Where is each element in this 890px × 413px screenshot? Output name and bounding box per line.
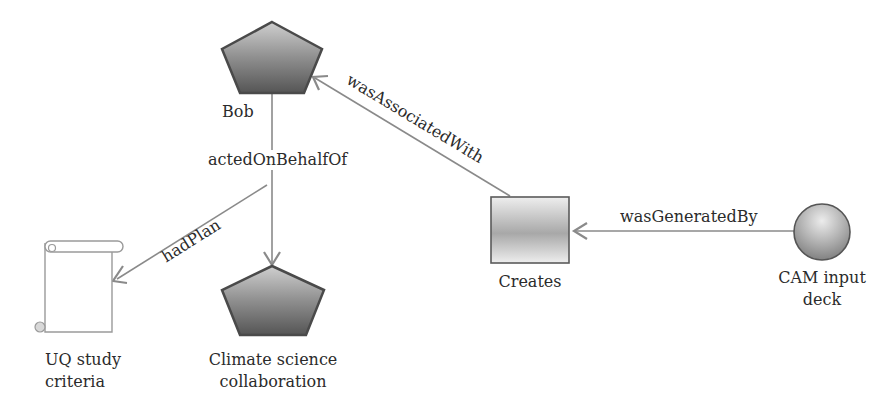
- uq-plan-scroll-icon[interactable]: [35, 241, 123, 332]
- uq-label-line-1: UQ study: [45, 350, 121, 370]
- cam-entity-circle-icon[interactable]: [794, 204, 850, 260]
- cam-label-line-1: CAM input: [778, 268, 866, 288]
- edge-acted-on-behalf-of: [264, 93, 280, 265]
- bob-agent-pentagon-icon[interactable]: [222, 22, 322, 93]
- edge-label-acted-on-behalf-of: actedOnBehalfOf: [206, 150, 349, 170]
- creates-activity-square-icon[interactable]: [491, 197, 569, 263]
- bob-label: Bob: [222, 102, 254, 122]
- edge-label-was-generated-by: wasGeneratedBy: [620, 207, 758, 227]
- climate-label-line-2: collaboration: [220, 372, 327, 392]
- uq-label-line-2: criteria: [45, 372, 105, 392]
- edge-was-associated-with: [313, 76, 510, 196]
- climate-agent-pentagon-icon[interactable]: [222, 266, 324, 335]
- cam-label-line-2: deck: [803, 290, 841, 310]
- creates-label: Creates: [498, 272, 561, 292]
- climate-label-line-1: Climate science: [209, 350, 338, 370]
